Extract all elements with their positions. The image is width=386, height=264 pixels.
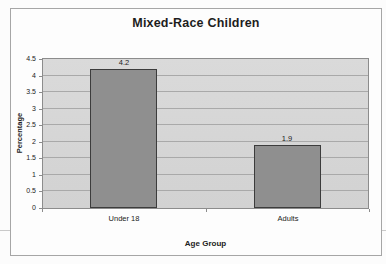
y-tick-label: 4.5 xyxy=(11,55,36,63)
bar xyxy=(254,145,321,208)
y-tick-label: 1 xyxy=(11,171,36,179)
y-tick-label: 2.5 xyxy=(11,121,36,129)
x-category-label: Under 18 xyxy=(42,214,206,223)
y-tick-mark xyxy=(39,76,42,77)
x-category-label: Adults xyxy=(206,214,370,223)
plot-area xyxy=(42,58,369,209)
bar-value-label: 4.2 xyxy=(99,58,149,67)
page: Mixed-Race Children Percentage Age Group… xyxy=(0,0,386,264)
y-tick-mark xyxy=(39,175,42,176)
y-tick-mark xyxy=(39,158,42,159)
y-tick-label: 0.5 xyxy=(11,187,36,195)
x-tick-mark xyxy=(369,209,370,212)
y-tick-label: 1.5 xyxy=(11,154,36,162)
y-tick-mark xyxy=(39,125,42,126)
y-tick-label: 2 xyxy=(11,138,36,146)
y-tick-mark xyxy=(39,142,42,143)
y-tick-mark xyxy=(39,92,42,93)
chart-frame: Mixed-Race Children Percentage Age Group… xyxy=(10,8,382,256)
y-tick-mark xyxy=(39,191,42,192)
y-tick-label: 3 xyxy=(11,105,36,113)
x-tick-mark xyxy=(206,209,207,212)
y-axis-title: Percentage xyxy=(15,113,24,153)
y-tick-label: 3.5 xyxy=(11,88,36,96)
y-tick-mark xyxy=(39,109,42,110)
y-tick-label: 0 xyxy=(11,204,36,212)
x-tick-mark xyxy=(42,209,43,212)
x-axis-title: Age Group xyxy=(42,239,369,248)
bar xyxy=(90,69,157,208)
chart-title: Mixed-Race Children xyxy=(11,16,381,30)
y-tick-mark xyxy=(39,59,42,60)
y-tick-label: 4 xyxy=(11,72,36,80)
bar-value-label: 1.9 xyxy=(262,134,312,143)
